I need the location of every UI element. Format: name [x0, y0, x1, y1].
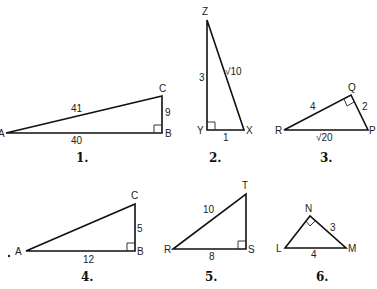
vertex-label-R: R: [164, 244, 171, 255]
problem-number-3: 3.: [320, 151, 333, 165]
side-label-RS: 8: [209, 251, 215, 262]
vertex-label-P: P: [369, 125, 376, 136]
side-label-ZX: √10: [225, 66, 242, 77]
problem-number-6: 6.: [316, 270, 329, 284]
right-angle-marker: [306, 221, 315, 226]
vertex-label-A: A: [15, 246, 22, 257]
vertex-label-Y: Y: [197, 125, 204, 136]
side-label-RT: 10: [203, 204, 215, 215]
vertex-label-C: C: [131, 190, 138, 201]
vertex-label-Q: Q: [348, 82, 356, 93]
right-angle-marker: [207, 122, 215, 130]
vertex-label-Z: Z: [202, 6, 208, 17]
vertex-label-C: C: [159, 83, 166, 94]
triangle-1: A C B 41 40 9 1.: [0, 83, 172, 165]
side-label-BC: 5: [137, 223, 143, 234]
triangle-3: R Q P 4 2 √20 3.: [275, 82, 376, 165]
right-triangles-diagram: A C B 41 40 9 1. Z Y X 3 √10 1 2. R Q P …: [0, 0, 377, 289]
vertex-label-B: B: [165, 128, 172, 139]
side-label-BC: 9: [165, 107, 171, 118]
side-label-AB: 40: [71, 135, 83, 146]
vertex-label-A: A: [0, 128, 5, 139]
triangle-3-shape: [284, 95, 368, 130]
vertex-label-S: S: [248, 244, 255, 255]
problem-number-5: 5.: [205, 270, 218, 284]
right-angle-marker: [344, 99, 354, 106]
side-label-RP: √20: [316, 132, 333, 143]
problem-number-4: 4.: [81, 270, 94, 284]
triangle-4-shape: [26, 204, 135, 251]
problem-number-2: 2.: [209, 151, 222, 165]
side-label-YX: 1: [223, 132, 229, 143]
side-label-NM: 3: [330, 222, 336, 233]
problem-number-1: 1.: [76, 151, 89, 165]
stray-dot: [8, 255, 10, 257]
vertex-label-N: N: [305, 203, 312, 214]
triangle-6: L N M 3 4 6.: [276, 203, 356, 284]
side-label-RQ: 4: [310, 101, 316, 112]
triangle-6-shape: [285, 216, 346, 248]
vertex-label-M: M: [348, 243, 356, 254]
side-label-AB: 12: [83, 254, 95, 265]
triangle-5: R T S 10 8 5.: [164, 180, 255, 284]
triangle-5-shape: [173, 194, 246, 249]
side-label-LM: 4: [311, 249, 317, 260]
right-angle-marker: [238, 241, 246, 249]
side-label-QP: 2: [362, 101, 368, 112]
vertex-label-R: R: [275, 125, 282, 136]
triangle-2: Z Y X 3 √10 1 2.: [197, 6, 253, 165]
side-label-AC: 41: [71, 103, 83, 114]
right-angle-marker: [154, 125, 162, 133]
side-label-ZY: 3: [199, 72, 205, 83]
triangle-4: A C B 12 5 4.: [8, 190, 144, 284]
vertex-label-L: L: [276, 243, 282, 254]
vertex-label-T: T: [242, 180, 248, 191]
right-angle-marker: [127, 243, 135, 251]
vertex-label-X: X: [246, 125, 253, 136]
vertex-label-B: B: [137, 246, 144, 257]
triangle-1-shape: [6, 96, 162, 133]
